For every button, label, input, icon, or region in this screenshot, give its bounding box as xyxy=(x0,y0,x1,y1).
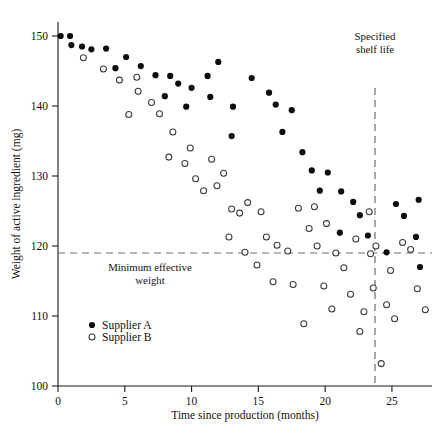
x-axis-title: Time since production (months) xyxy=(171,409,319,422)
y-tick-label: 100 xyxy=(31,380,49,392)
data-point-supplier-a xyxy=(337,230,343,236)
data-point-supplier-b xyxy=(274,242,280,248)
y-axis-ticks: 100110120130140150 xyxy=(31,30,58,392)
legend-label-supplier-b: Supplier B xyxy=(102,331,152,344)
data-point-supplier-a xyxy=(279,129,285,135)
data-point-supplier-a xyxy=(338,188,344,194)
y-axis-title: Weight of active ingredient (mg) xyxy=(10,129,23,280)
data-point-supplier-b xyxy=(170,129,176,135)
data-point-supplier-b xyxy=(149,100,155,106)
data-point-supplier-a xyxy=(266,90,272,96)
y-tick-label: 130 xyxy=(31,170,49,182)
data-point-supplier-b xyxy=(209,156,215,162)
series-supplier-a-points xyxy=(58,33,424,270)
data-point-supplier-b xyxy=(126,111,132,117)
x-tick-label: 0 xyxy=(55,395,61,407)
data-point-supplier-b xyxy=(373,243,379,249)
data-point-supplier-a xyxy=(58,33,64,39)
x-axis-ticks: 0510152025 xyxy=(55,386,398,407)
shelf-life-annotation-line1: Specified xyxy=(355,30,396,42)
data-point-supplier-a xyxy=(350,199,356,205)
data-point-supplier-a xyxy=(393,201,399,207)
data-point-supplier-b xyxy=(229,206,235,212)
min-weight-annotation-line1: Minimum effective xyxy=(108,261,192,273)
data-point-supplier-b xyxy=(341,265,347,271)
data-point-supplier-a xyxy=(365,232,371,238)
data-point-supplier-b xyxy=(214,183,220,189)
min-weight-annotation-line2: weight xyxy=(135,274,164,286)
data-point-supplier-b xyxy=(422,307,428,313)
plot-area: 100110120130140150 0510152025 Specified … xyxy=(0,0,442,437)
data-point-supplier-b xyxy=(408,247,414,253)
data-point-supplier-a xyxy=(205,73,211,79)
data-point-supplier-b xyxy=(368,251,374,257)
y-tick-label: 110 xyxy=(31,310,48,322)
data-point-supplier-a xyxy=(273,102,279,108)
data-point-supplier-b xyxy=(400,240,406,246)
data-point-supplier-b xyxy=(323,221,329,227)
data-point-supplier-b xyxy=(321,283,327,289)
data-point-supplier-b xyxy=(80,55,86,61)
data-point-supplier-b xyxy=(221,170,227,176)
data-point-supplier-b xyxy=(301,321,307,327)
data-point-supplier-b xyxy=(384,302,390,308)
x-tick-label: 5 xyxy=(122,395,128,407)
y-tick-label: 150 xyxy=(31,30,49,42)
data-point-supplier-a xyxy=(167,73,173,79)
data-point-supplier-a xyxy=(175,81,181,87)
data-point-supplier-b xyxy=(157,111,163,117)
data-point-supplier-b xyxy=(329,306,335,312)
data-point-supplier-b xyxy=(333,250,339,256)
data-point-supplier-b xyxy=(134,74,140,80)
data-point-supplier-b xyxy=(226,234,232,240)
y-tick-label: 140 xyxy=(31,100,49,112)
data-point-supplier-a xyxy=(138,63,144,69)
data-point-supplier-b xyxy=(182,160,188,166)
data-point-supplier-b xyxy=(187,145,193,151)
data-point-supplier-a xyxy=(309,167,315,173)
data-point-supplier-b xyxy=(263,234,269,240)
data-point-supplier-a xyxy=(417,264,423,270)
scatter-chart: 100110120130140150 0510152025 Specified … xyxy=(0,0,442,437)
data-point-supplier-b xyxy=(306,226,312,232)
chart-legend: Supplier A Supplier B xyxy=(89,319,152,344)
data-point-supplier-a xyxy=(317,188,323,194)
data-point-supplier-b xyxy=(370,285,376,291)
data-point-supplier-b xyxy=(270,279,276,285)
data-point-supplier-a xyxy=(162,93,168,99)
data-point-supplier-a xyxy=(112,65,118,71)
data-point-supplier-b xyxy=(361,309,367,315)
data-point-supplier-a xyxy=(207,94,213,100)
data-point-supplier-a xyxy=(383,249,389,255)
data-point-supplier-a xyxy=(103,46,109,52)
data-point-supplier-b xyxy=(285,248,291,254)
data-point-supplier-a xyxy=(79,43,85,49)
data-point-supplier-a xyxy=(68,42,74,48)
x-tick-label: 20 xyxy=(319,395,331,407)
x-tick-label: 25 xyxy=(386,395,398,407)
data-point-supplier-a xyxy=(183,104,189,110)
data-point-supplier-a xyxy=(357,212,363,218)
data-point-supplier-b xyxy=(414,286,420,292)
legend-marker-supplier-a xyxy=(89,322,95,328)
data-point-supplier-a xyxy=(401,213,407,219)
data-point-supplier-b xyxy=(166,154,172,160)
data-point-supplier-b xyxy=(135,88,141,94)
x-tick-label: 10 xyxy=(186,395,198,407)
data-point-supplier-b xyxy=(254,262,260,268)
data-point-supplier-b xyxy=(388,268,394,274)
data-point-supplier-b xyxy=(366,209,372,215)
data-point-supplier-b xyxy=(100,66,106,72)
data-point-supplier-a xyxy=(88,46,94,52)
data-point-supplier-b xyxy=(295,205,301,211)
data-point-supplier-a xyxy=(289,107,295,113)
data-point-supplier-b xyxy=(258,209,264,215)
data-point-supplier-b xyxy=(378,361,384,367)
data-point-supplier-a xyxy=(67,33,73,39)
data-point-supplier-a xyxy=(229,133,235,139)
shelf-life-annotation-line2: shelf life xyxy=(356,43,394,55)
data-point-supplier-b xyxy=(193,176,199,182)
data-point-supplier-b xyxy=(392,316,398,322)
data-point-supplier-a xyxy=(188,85,194,91)
data-point-supplier-b xyxy=(357,328,363,334)
